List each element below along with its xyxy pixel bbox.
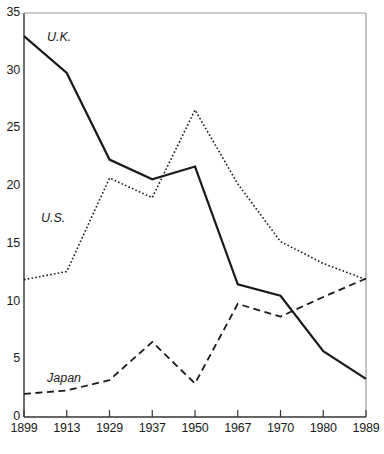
y-tick-label: 10 [0,294,20,308]
x-tick-label: 1899 [4,421,44,435]
x-tick-label: 1970 [261,421,301,435]
series-label-uk: U.K. [47,30,71,44]
y-tick-label: 15 [0,236,20,250]
x-tick-label: 1913 [47,421,87,435]
x-tick-label: 1929 [90,421,130,435]
x-tick-label: 1989 [346,421,384,435]
series-line-uk [24,36,366,379]
y-tick-label: 30 [0,63,20,77]
series-label-us: U.S. [41,211,65,225]
x-tick-label: 1980 [303,421,343,435]
axis-lines [24,13,366,417]
y-tick-label: 5 [0,351,20,365]
x-tick-label: 1937 [132,421,172,435]
y-tick-label: 25 [0,120,20,134]
series-paths [24,36,366,394]
series-line-us [24,110,366,280]
series-label-japan: Japan [47,371,81,385]
x-tick-label: 1950 [175,421,215,435]
x-axis-ticks [24,410,366,417]
x-tick-label: 1967 [218,421,258,435]
y-tick-label: 20 [0,178,20,192]
y-tick-label: 35 [0,5,20,19]
